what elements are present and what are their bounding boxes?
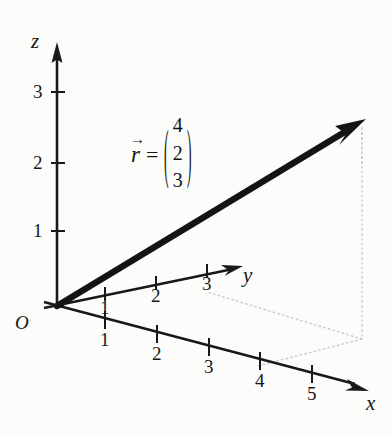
vector-component-z: 3 — [173, 167, 183, 195]
column-vector: ( 4 2 3 ) — [163, 112, 192, 195]
x-axis-arrowhead — [345, 379, 369, 391]
right-paren: ) — [187, 123, 192, 183]
x-tick-label-1: 1 — [100, 330, 110, 349]
vector-component-x: 4 — [173, 112, 183, 140]
vector-equation: → r = ( 4 2 3 ) — [131, 112, 192, 195]
z-tick-label-1: 1 — [33, 221, 43, 240]
x-axis-line — [44, 302, 355, 384]
z-tick-label-2: 2 — [33, 153, 43, 172]
y-tick-label-2: 2 — [151, 286, 161, 305]
projection-guides — [207, 128, 362, 366]
diagram-canvas — [0, 0, 391, 435]
column-vector-values: 4 2 3 — [173, 112, 183, 195]
x-axis-label: x — [366, 393, 375, 414]
vector-symbol-r: → r — [131, 138, 140, 168]
z-tick-label-3: 3 — [33, 82, 43, 101]
x-tick-label-3: 3 — [204, 357, 214, 376]
x-tick-label-2: 2 — [152, 344, 162, 363]
projection-line-to-y-axis — [207, 292, 362, 339]
vector-component-y: 2 — [173, 140, 183, 168]
origin-label: O — [15, 313, 29, 332]
vector-arrow-accent-icon: → — [130, 131, 145, 148]
x-tick-label-5: 5 — [307, 384, 317, 403]
x-tick-label-4: 4 — [255, 371, 265, 390]
z-axis-label: z — [31, 31, 39, 52]
y-tick-label-3: 3 — [202, 274, 212, 293]
y-tick-label-1: 1 — [100, 298, 110, 317]
left-paren: ( — [164, 123, 169, 183]
x-axis — [44, 302, 355, 384]
y-axis-label: y — [243, 265, 252, 286]
vector-diagram-figure: z y x O 1 2 3 1 2 3 1 2 3 4 5 → r = ( 4 … — [0, 0, 391, 435]
equals-sign: = — [146, 139, 158, 168]
